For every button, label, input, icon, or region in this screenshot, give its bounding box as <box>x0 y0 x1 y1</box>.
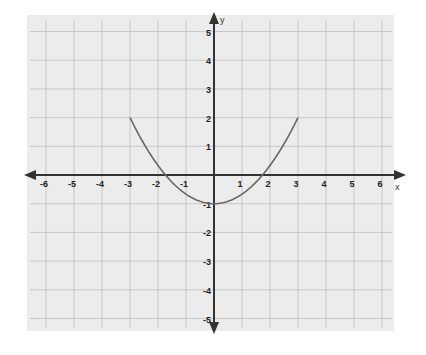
x-tick-label: 4 <box>321 179 326 189</box>
y-tick-label: 1 <box>206 142 211 152</box>
y-tick-label: -2 <box>203 228 211 238</box>
x-tick-label: -5 <box>68 179 76 189</box>
x-tick-label: 5 <box>349 179 354 189</box>
coordinate-plane: x y -6-5-4-3-2-1123456 54321-1-2-3-4-5 <box>0 0 426 355</box>
x-tick-label: -3 <box>124 179 132 189</box>
y-tick-label: -4 <box>203 286 211 296</box>
y-tick-label: 2 <box>206 114 211 124</box>
x-tick-label: 1 <box>237 179 242 189</box>
x-tick-label: 6 <box>377 179 382 189</box>
x-tick-label: -4 <box>96 179 104 189</box>
x-tick-label: -6 <box>40 179 48 189</box>
y-tick-label: 5 <box>206 28 211 38</box>
y-tick-label: -3 <box>203 257 211 267</box>
x-tick-label: -1 <box>180 179 188 189</box>
x-axis-right-arrow-icon <box>394 170 406 180</box>
y-tick-label: -5 <box>203 315 211 325</box>
x-tick-label: 2 <box>265 179 270 189</box>
y-tick-label: 3 <box>206 85 211 95</box>
y-axis-label: y <box>220 15 225 25</box>
x-axis-label: x <box>395 182 400 192</box>
y-tick-label: 4 <box>206 56 211 66</box>
x-tick-label: 3 <box>293 179 298 189</box>
x-tick-label: -2 <box>152 179 160 189</box>
y-tick-label: -1 <box>203 200 211 210</box>
